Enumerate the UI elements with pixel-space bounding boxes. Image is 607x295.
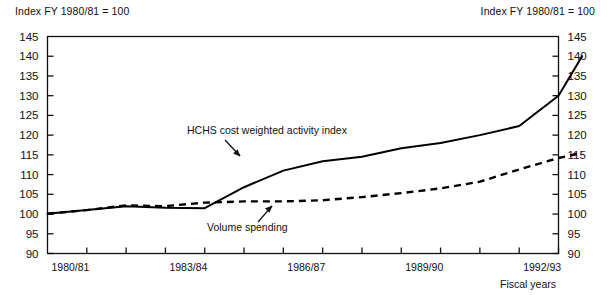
y-tick-label-left: 145 xyxy=(19,31,38,43)
y-tick-label-right: 120 xyxy=(568,129,587,141)
y-tick-label-left: 115 xyxy=(20,149,38,161)
x-axis-ticks xyxy=(87,248,559,254)
y-tick-label-left: 120 xyxy=(19,129,38,141)
line-chart-plot: 9095100105110115120125130135140145 90951… xyxy=(0,0,607,295)
chart-figure: Index FY 1980/81 = 100 Index FY 1980/81 … xyxy=(0,0,607,295)
annotation-arrowhead-volume-icon xyxy=(265,206,272,212)
y-axis-right xyxy=(553,56,559,253)
y-axis-left xyxy=(48,56,54,253)
plot-frame xyxy=(48,37,559,254)
annotation-hchs-activity-index: HCHS cost weighted activity index xyxy=(187,124,348,136)
y-tick-label-left: 90 xyxy=(26,248,39,260)
y-tick-label-left: 130 xyxy=(19,90,38,102)
y-tick-label-right: 90 xyxy=(568,248,581,260)
x-tick-label: 1992/93 xyxy=(523,261,561,273)
y-tick-label-left: 135 xyxy=(19,70,38,82)
y-tick-label-left: 125 xyxy=(19,109,38,121)
y-tick-label-right: 110 xyxy=(568,169,586,181)
y-tick-label-right: 105 xyxy=(568,188,587,200)
y-tick-label-right: 100 xyxy=(568,208,587,220)
y-tick-label-left: 110 xyxy=(20,169,38,181)
x-tick-label: 1986/87 xyxy=(287,261,325,273)
y-tick-label-right: 130 xyxy=(568,90,587,102)
x-tick-label: 1989/90 xyxy=(405,261,443,273)
y-tick-label-left: 100 xyxy=(19,208,38,220)
y-tick-label-left: 105 xyxy=(19,188,38,200)
x-tick-label: 1980/81 xyxy=(52,261,90,273)
y-tick-label-left: 95 xyxy=(26,228,39,240)
y-tick-label-right: 95 xyxy=(568,228,581,240)
y-axis-left-labels: 9095100105110115120125130135140145 xyxy=(19,31,38,260)
x-axis-tick-labels: 1980/811983/841986/871989/901992/93 xyxy=(52,261,562,273)
y-tick-label-right: 145 xyxy=(568,31,587,43)
y-tick-label-right: 140 xyxy=(568,50,587,62)
series-line-volume-spending xyxy=(48,153,583,214)
y-tick-label-left: 140 xyxy=(19,50,38,62)
annotation-volume-spending: Volume spending xyxy=(207,221,288,233)
x-axis-title: Fiscal years xyxy=(500,278,556,290)
y-tick-label-right: 125 xyxy=(568,109,587,121)
x-tick-label: 1983/84 xyxy=(169,261,207,273)
